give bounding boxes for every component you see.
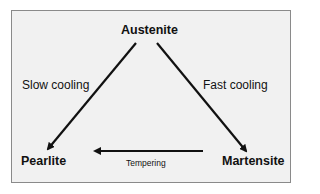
arrow-fast-cooling: [157, 43, 246, 151]
node-martensite: Martensite: [222, 154, 285, 168]
label-slow-cooling: Slow cooling: [22, 78, 89, 92]
node-pearlite: Pearlite: [21, 154, 66, 168]
node-austenite: Austenite: [121, 23, 178, 37]
label-fast-cooling: Fast cooling: [203, 78, 268, 92]
label-tempering: Tempering: [126, 158, 166, 168]
arrow-slow-cooling: [48, 43, 136, 149]
